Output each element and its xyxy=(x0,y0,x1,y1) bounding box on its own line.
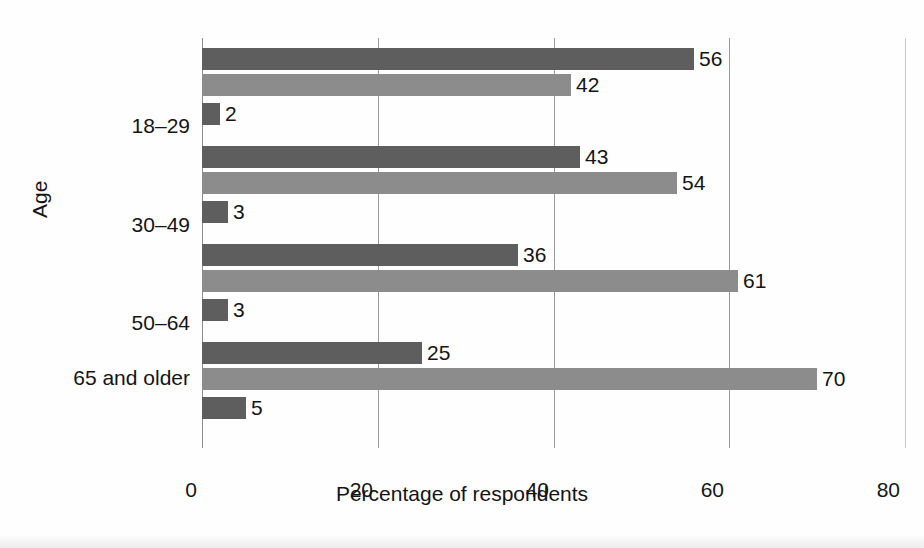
bar-chart-figure: 18–29 30–49 50–64 65 and older 56 42 2 4… xyxy=(0,0,924,548)
bar-30-49-series-2 xyxy=(202,172,677,194)
category-label-3: 65 and older xyxy=(73,366,190,390)
bar-30-49-series-1 xyxy=(202,146,580,168)
paper-edge-band xyxy=(0,534,924,548)
bar-30-49-series-3 xyxy=(202,201,228,223)
bar-18-29-series-1 xyxy=(202,48,694,70)
category-label-1: 30–49 xyxy=(132,213,190,237)
category-label-0: 18–29 xyxy=(132,114,190,138)
gridline-80 xyxy=(905,38,906,448)
bar-50-64-series-1 xyxy=(202,244,518,266)
bar-value-30-49-series-1: 43 xyxy=(585,146,608,168)
plot-area: 56 42 2 43 54 3 36 61 3 25 70 5 0 20 40 … xyxy=(202,38,905,448)
bar-65-and-older-series-1 xyxy=(202,342,422,364)
bar-50-64-series-3 xyxy=(202,299,228,321)
bar-value-18-29-series-2: 42 xyxy=(576,74,599,96)
bar-value-18-29-series-1: 56 xyxy=(699,48,722,70)
bar-value-65-and-older-series-1: 25 xyxy=(427,342,450,364)
bar-value-65-and-older-series-2: 70 xyxy=(822,368,845,390)
category-label-2: 50–64 xyxy=(132,311,190,335)
x-axis-title: Percentage of respondents xyxy=(0,482,924,506)
bar-value-50-64-series-1: 36 xyxy=(523,244,546,266)
bar-65-and-older-series-2 xyxy=(202,368,817,390)
bar-value-65-and-older-series-3: 5 xyxy=(251,397,263,419)
bar-value-50-64-series-3: 3 xyxy=(233,299,245,321)
bar-18-29-series-2 xyxy=(202,74,571,96)
bar-50-64-series-2 xyxy=(202,270,738,292)
category-axis-labels: 18–29 30–49 50–64 65 and older xyxy=(0,38,190,448)
bar-65-and-older-series-3 xyxy=(202,397,246,419)
bar-18-29-series-3 xyxy=(202,103,220,125)
bar-value-30-49-series-2: 54 xyxy=(682,172,705,194)
bar-value-30-49-series-3: 3 xyxy=(233,201,245,223)
bar-value-50-64-series-2: 61 xyxy=(743,270,766,292)
bar-value-18-29-series-3: 2 xyxy=(225,103,237,125)
y-axis-title: Age xyxy=(28,181,52,218)
